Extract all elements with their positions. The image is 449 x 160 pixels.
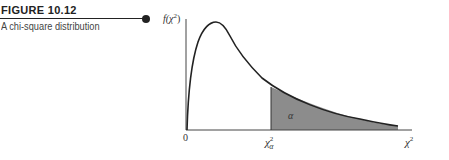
x-axis-label: χ2 [404,135,414,148]
y-axis-label: f(χ2) [163,12,180,25]
origin-label: 0 [183,132,188,143]
chi-square-chart: f(χ2) 0 χ2α α χ2 [0,0,449,160]
alpha-label: α [288,110,294,121]
critical-value-label: χ2α [264,135,274,151]
